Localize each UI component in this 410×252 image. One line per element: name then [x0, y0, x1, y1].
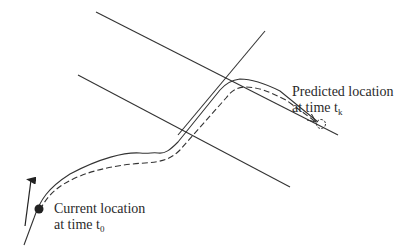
current-location-line2: at time t0: [54, 217, 145, 233]
predicted-time-subscript: k: [338, 107, 343, 117]
predicted-path-dashed: [40, 87, 316, 210]
current-time-text: at time t: [54, 217, 100, 232]
road-boundary-upper: [96, 12, 338, 135]
predicted-location-line2: at time tk: [292, 100, 393, 116]
current-time-subscript: 0: [100, 224, 105, 234]
predicted-location-marker: [317, 120, 326, 129]
predicted-location-line1: Predicted location: [292, 84, 393, 100]
heading-arrow: [25, 180, 31, 226]
current-location-label: Current location at time t0: [54, 201, 145, 233]
current-location-line1: Current location: [54, 201, 145, 217]
predicted-time-text: at time t: [292, 100, 338, 115]
crossing-road: [178, 31, 265, 135]
road-boundary-lower: [78, 75, 290, 187]
current-location-marker: [35, 205, 44, 214]
predicted-location-label: Predicted location at time tk: [292, 84, 393, 116]
